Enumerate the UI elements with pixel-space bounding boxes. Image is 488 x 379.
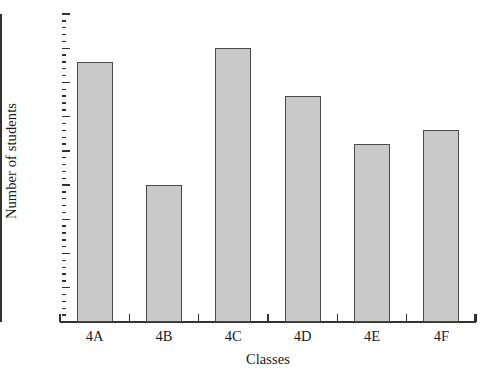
y-axis-minor-tick (62, 123, 67, 124)
y-axis-line (0, 14, 2, 322)
y-axis-minor-tick (62, 267, 67, 268)
y-axis-title: Number of students (0, 0, 22, 322)
y-axis-major-tick (62, 321, 70, 322)
x-axis-title: Classes (60, 351, 476, 368)
y-axis-minor-tick (62, 61, 67, 62)
y-axis-minor-tick (62, 314, 67, 315)
y-axis-minor-tick (62, 212, 67, 213)
y-axis-minor-tick (62, 143, 67, 144)
bar-4F (423, 130, 459, 322)
x-axis-tick-label-4F: 4F (401, 328, 481, 345)
y-axis-minor-tick (62, 191, 67, 192)
y-axis-minor-tick (62, 294, 67, 295)
bar-4D (285, 96, 321, 322)
y-axis-major-tick (62, 13, 70, 14)
bar-4B (146, 185, 182, 322)
y-axis-minor-tick (62, 95, 67, 96)
x-axis-tick (337, 314, 338, 322)
x-axis-tick (129, 314, 130, 322)
x-axis-tick-label-4A: 4A (55, 328, 135, 345)
bar-4C (215, 48, 251, 322)
y-axis-minor-tick (62, 54, 67, 55)
y-axis-major-tick (62, 82, 70, 83)
y-axis-minor-tick (62, 225, 67, 226)
y-axis-major-tick (62, 287, 70, 288)
y-axis-minor-tick (62, 109, 67, 110)
y-axis-minor-tick (62, 75, 67, 76)
y-axis-minor-tick (62, 246, 67, 247)
x-axis-tick (198, 314, 199, 322)
bar-4E (354, 144, 390, 322)
y-axis-major-tick (62, 253, 70, 254)
x-axis-tick (59, 314, 60, 322)
y-axis-minor-tick (62, 102, 67, 103)
y-axis-minor-tick (62, 34, 67, 35)
plot-area (60, 14, 476, 322)
y-axis-minor-tick (62, 164, 67, 165)
y-axis-minor-tick (62, 27, 67, 28)
y-axis-minor-tick (62, 171, 67, 172)
y-axis-major-tick (62, 184, 70, 185)
y-axis-minor-tick (62, 178, 67, 179)
y-axis-minor-tick (62, 20, 67, 21)
y-axis-minor-tick (62, 273, 67, 274)
y-axis-minor-tick (62, 89, 67, 90)
x-axis-tick-label-4C: 4C (193, 328, 273, 345)
y-axis-minor-tick (62, 205, 67, 206)
x-axis-tick (475, 314, 476, 322)
y-axis-minor-tick (62, 301, 67, 302)
y-axis-minor-tick (62, 41, 67, 42)
y-axis-major-tick (62, 219, 70, 220)
y-axis-minor-tick (62, 232, 67, 233)
bar-chart-figure: Number of students 051015202530354045 4A… (0, 0, 488, 379)
y-axis-major-tick (62, 48, 70, 49)
bar-4A (77, 62, 113, 322)
x-axis-tick-label-4B: 4B (124, 328, 204, 345)
x-axis-tick-label-4E: 4E (332, 328, 412, 345)
x-axis-tick (267, 314, 268, 322)
y-axis-minor-tick (62, 308, 67, 309)
x-axis-tick-label-4D: 4D (263, 328, 343, 345)
y-axis-minor-tick (62, 260, 67, 261)
y-axis-major-tick (62, 116, 70, 117)
y-axis-minor-tick (62, 130, 67, 131)
y-axis-minor-tick (62, 157, 67, 158)
y-axis-minor-tick (62, 280, 67, 281)
y-axis-minor-tick (62, 137, 67, 138)
y-axis-major-tick (62, 150, 70, 151)
x-axis-tick (406, 314, 407, 322)
y-axis-minor-tick (62, 68, 67, 69)
y-axis-minor-tick (62, 198, 67, 199)
y-axis-minor-tick (62, 239, 67, 240)
